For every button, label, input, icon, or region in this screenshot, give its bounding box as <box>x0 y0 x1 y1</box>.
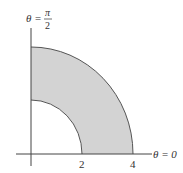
tick-label-2: 2 <box>79 158 85 170</box>
label-2-den: 2 <box>45 20 50 31</box>
tick-label-4: 4 <box>130 158 136 170</box>
label-theta-zero: θ = 0 <box>153 148 177 160</box>
polar-diagram: θ = π 2 θ = 0 2 4 <box>0 0 183 173</box>
shaded-region <box>31 47 133 154</box>
label-pi: π <box>45 7 51 18</box>
label-theta-top: θ = <box>26 12 42 24</box>
